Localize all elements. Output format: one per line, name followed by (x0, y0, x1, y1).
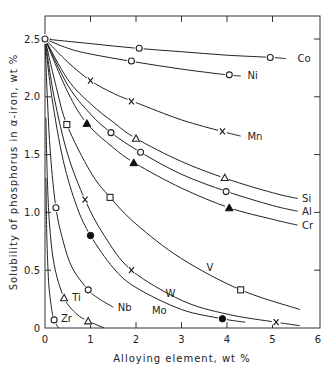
y-axis-label: Solubility of phosphorus in α-iron, wt % (8, 54, 19, 291)
plot-frame (45, 16, 320, 328)
co-curve (45, 39, 286, 59)
co-marker (136, 45, 142, 51)
nb-marker (85, 287, 91, 293)
x-tick-label: 0 (42, 334, 48, 345)
mo-label: Mo (152, 305, 167, 316)
mo-curve (45, 39, 245, 322)
co-marker (267, 54, 273, 60)
nb-marker (53, 205, 59, 211)
si-label: Si (302, 193, 311, 204)
al-marker (108, 130, 114, 136)
x-tick-label: 1 (87, 334, 93, 345)
origin-marker (42, 36, 48, 42)
y-tick-label: 2.0 (24, 91, 40, 102)
v-curve (45, 39, 300, 310)
y-tick-label: 1.5 (24, 149, 40, 160)
ni-label: Ni (247, 70, 257, 81)
phosphorus-solubility-chart: 012345600.51.01.52.02.5 CoNiMnSiAlCrVWMo… (0, 0, 334, 373)
x-tick-label: 3 (178, 334, 184, 345)
al-label: Al (302, 206, 312, 217)
zr-marker (51, 317, 57, 323)
mo-marker (87, 232, 93, 238)
cr-label: Cr (302, 220, 314, 231)
ni-curve (45, 39, 241, 76)
v-marker (64, 122, 70, 128)
y-tick-label: 1.0 (24, 207, 40, 218)
x-tick-label: 6 (315, 334, 321, 345)
x-tick-label: 4 (224, 334, 230, 345)
ni-marker (226, 72, 232, 78)
ni-marker (128, 58, 134, 64)
x-tick-label: 2 (133, 334, 139, 345)
ti-label: Ti (71, 292, 81, 303)
w-curve (45, 39, 300, 326)
co-label: Co (298, 53, 311, 64)
v-label: V (207, 262, 214, 273)
mo-marker (219, 316, 225, 322)
x-tick-label: 5 (269, 334, 275, 345)
nb-curve (45, 39, 113, 307)
v-marker (238, 287, 244, 293)
y-tick-label: 0.5 (24, 265, 40, 276)
x-axis-label: Alloying element, wt % (113, 353, 250, 364)
data-curves (45, 39, 300, 328)
al-marker (138, 149, 144, 155)
zr-label: Zr (61, 313, 73, 324)
nb-label: Nb (118, 302, 132, 313)
al-marker (223, 189, 229, 195)
mn-label: Mn (247, 131, 262, 142)
y-tick-label: 0 (34, 323, 40, 334)
y-tick-label: 2.5 (24, 34, 40, 45)
curve-labels: CoNiMnSiAlCrVWMoNbTiZr (61, 53, 314, 324)
w-label: W (166, 288, 176, 299)
v-marker (107, 194, 113, 200)
